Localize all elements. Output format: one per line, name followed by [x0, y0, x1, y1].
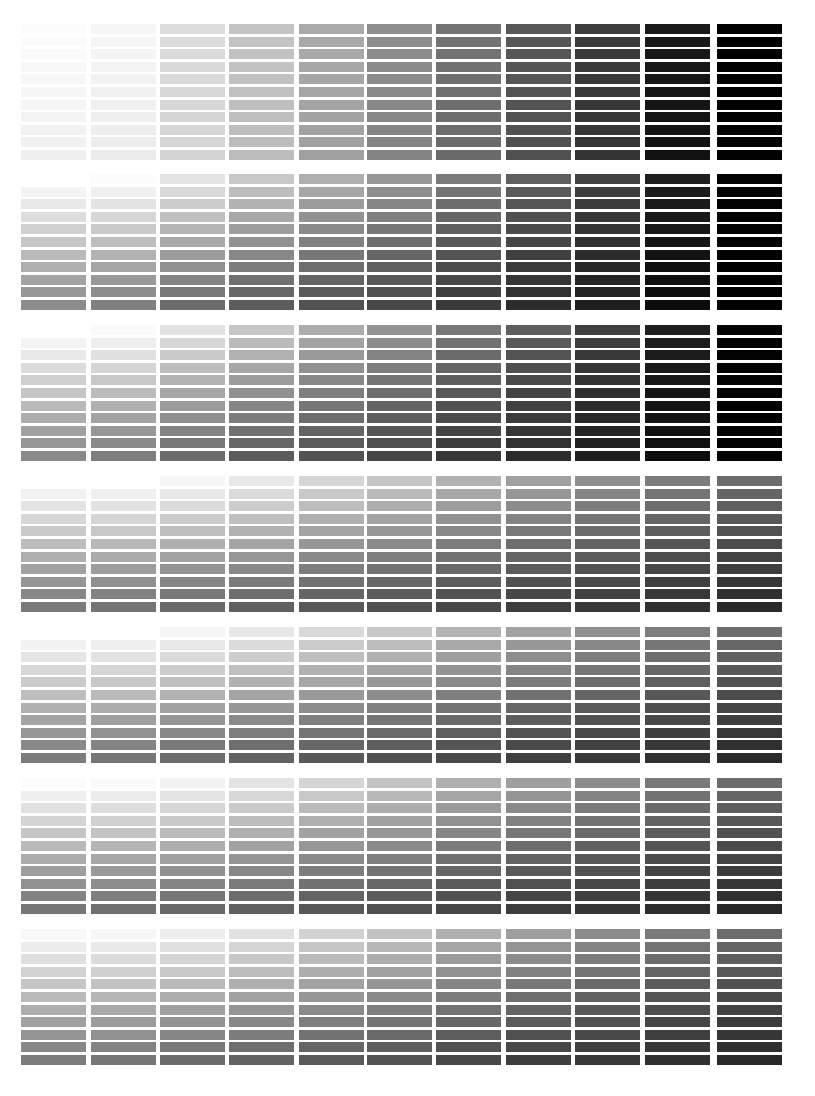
- gray-swatch: [299, 828, 364, 838]
- gray-swatch: [367, 1042, 432, 1052]
- gray-swatch: [506, 665, 571, 675]
- gray-swatch: [717, 438, 782, 448]
- gray-swatch: [229, 728, 294, 738]
- gray-swatch: [645, 476, 710, 486]
- gray-swatch: [367, 426, 432, 436]
- gray-swatch: [717, 501, 782, 511]
- gray-swatch: [299, 879, 364, 889]
- gray-swatch: [367, 602, 432, 612]
- gray-swatch: [645, 501, 710, 511]
- gray-swatch: [91, 237, 156, 247]
- gray-swatch: [436, 715, 501, 725]
- gray-swatch: [645, 841, 710, 851]
- gray-swatch: [91, 1042, 156, 1052]
- gray-swatch: [717, 74, 782, 84]
- gray-swatch: [645, 1017, 710, 1027]
- gray-swatch: [299, 363, 364, 373]
- gray-swatch: [91, 476, 156, 486]
- gray-swatch: [160, 715, 225, 725]
- gray-swatch: [91, 1005, 156, 1015]
- gray-swatch: [506, 489, 571, 499]
- gray-swatch: [299, 942, 364, 952]
- gray-swatch: [575, 942, 640, 952]
- gray-swatch: [91, 677, 156, 687]
- gray-swatch: [91, 564, 156, 574]
- gray-swatch: [21, 62, 86, 72]
- gray-swatch: [575, 350, 640, 360]
- gray-swatch: [575, 514, 640, 524]
- gray-swatch: [299, 753, 364, 763]
- gray-swatch: [160, 87, 225, 97]
- gray-swatch: [436, 652, 501, 662]
- gray-swatch: [717, 401, 782, 411]
- gray-swatch: [91, 1030, 156, 1040]
- gray-swatch: [160, 413, 225, 423]
- gray-swatch: [717, 954, 782, 964]
- gray-swatch: [436, 891, 501, 901]
- gray-swatch: [367, 539, 432, 549]
- gray-swatch: [160, 24, 225, 34]
- gray-swatch: [436, 112, 501, 122]
- gray-swatch: [506, 451, 571, 461]
- gray-swatch: [436, 665, 501, 675]
- gray-swatch: [229, 942, 294, 952]
- gray-swatch: [229, 979, 294, 989]
- gray-swatch: [645, 627, 710, 637]
- gray-swatch: [506, 929, 571, 939]
- gray-swatch: [645, 589, 710, 599]
- gray-swatch: [160, 703, 225, 713]
- gray-swatch: [21, 1042, 86, 1052]
- gray-swatch: [436, 866, 501, 876]
- gray-swatch: [91, 74, 156, 84]
- gray-swatch: [717, 904, 782, 914]
- gray-swatch: [717, 287, 782, 297]
- gray-swatch: [229, 740, 294, 750]
- gray-swatch: [717, 514, 782, 524]
- gray-swatch: [91, 489, 156, 499]
- gray-swatch: [21, 476, 86, 486]
- gray-swatch: [717, 413, 782, 423]
- gray-swatch: [506, 262, 571, 272]
- gray-swatch: [160, 665, 225, 675]
- gray-swatch: [717, 224, 782, 234]
- gray-swatch: [91, 224, 156, 234]
- gray-swatch: [91, 791, 156, 801]
- gray-swatch: [717, 703, 782, 713]
- gray-swatch: [299, 866, 364, 876]
- gray-swatch: [436, 476, 501, 486]
- gray-swatch: [575, 363, 640, 373]
- gray-swatch: [21, 388, 86, 398]
- gray-swatch: [91, 715, 156, 725]
- gray-swatch: [506, 866, 571, 876]
- gray-swatch: [575, 375, 640, 385]
- gray-swatch: [160, 150, 225, 160]
- gray-swatch: [645, 740, 710, 750]
- gray-swatch: [91, 451, 156, 461]
- gray-swatch: [436, 325, 501, 335]
- gray-swatch: [91, 49, 156, 59]
- gray-swatch: [575, 577, 640, 587]
- gray-swatch: [229, 854, 294, 864]
- gray-swatch: [436, 300, 501, 310]
- gray-swatch: [367, 879, 432, 889]
- gray-swatch: [645, 212, 710, 222]
- gray-swatch: [575, 199, 640, 209]
- gray-swatch: [299, 262, 364, 272]
- gray-swatch: [645, 577, 710, 587]
- gray-swatch: [160, 854, 225, 864]
- gray-swatch: [160, 426, 225, 436]
- gray-swatch: [21, 828, 86, 838]
- gray-swatch: [229, 992, 294, 1002]
- gray-swatch: [91, 942, 156, 952]
- gray-swatch: [367, 577, 432, 587]
- gray-swatch: [229, 891, 294, 901]
- gray-swatch: [645, 552, 710, 562]
- gray-swatch: [160, 438, 225, 448]
- gray-swatch: [21, 1017, 86, 1027]
- gray-swatch: [91, 438, 156, 448]
- gray-swatch: [575, 728, 640, 738]
- gray-swatch: [229, 237, 294, 247]
- gray-swatch: [645, 150, 710, 160]
- gray-swatch: [506, 1030, 571, 1040]
- gray-swatch: [91, 250, 156, 260]
